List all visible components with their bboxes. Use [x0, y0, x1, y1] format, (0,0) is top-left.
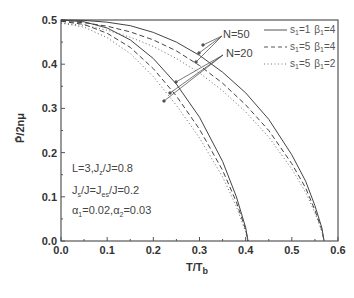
- y-tick-label: 0.1: [42, 191, 57, 203]
- annotation-arrows: [163, 36, 223, 102]
- legend-item-2: s1=5β1=4: [290, 41, 336, 53]
- chart: 0.00.10.20.30.40.50.6 0.00.10.20.30.40.5…: [0, 0, 354, 298]
- param-line-2: Js/J=Jes/J=0.2: [72, 184, 139, 198]
- arrowhead-icon: [195, 61, 198, 64]
- x-axis-label: T/Tb: [186, 261, 209, 276]
- y-tick-label: 0.4: [42, 58, 58, 70]
- arrowhead-icon: [202, 44, 205, 47]
- annotation-n20: N=20: [226, 47, 253, 59]
- legend-item-1: s1=1β1=4: [290, 24, 336, 36]
- legend-item-3: s1=5β1=2: [290, 58, 336, 70]
- arrowhead-icon: [198, 52, 201, 55]
- y-axis-label: P̄/2nμ: [14, 113, 26, 143]
- y-tick-label: 0.0: [42, 235, 57, 247]
- param-line-3: α1=0.02,α2=0.03: [72, 204, 151, 218]
- y-tick-label: 0.3: [42, 102, 57, 114]
- n-annotations: N=50 N=20: [163, 28, 253, 102]
- x-tick-label: 0.3: [192, 244, 207, 256]
- x-tick-label: 0.5: [284, 244, 299, 256]
- x-tick-label: 0.6: [330, 244, 345, 256]
- arrowhead-icon: [175, 81, 178, 84]
- y-tick-label: 0.2: [42, 147, 57, 159]
- arrowhead-icon: [169, 92, 172, 95]
- legend: s1=1β1=4 s1=5β1=4 s1=5β1=2: [264, 24, 336, 70]
- x-tick-label: 0.4: [238, 244, 254, 256]
- x-tick-label: 0.1: [100, 244, 115, 256]
- parameter-annotations: L=3,Jz/J=0.8 Js/J=Jes/J=0.2 α1=0.02,α2=0…: [72, 162, 151, 218]
- arrowhead-icon: [163, 100, 166, 103]
- annotation-n50: N=50: [223, 28, 250, 40]
- param-line-1: L=3,Jz/J=0.8: [72, 162, 133, 176]
- y-tick-label: 0.5: [42, 14, 57, 26]
- x-axis-ticks: 0.00.10.20.30.40.50.6: [53, 237, 345, 256]
- x-tick-label: 0.2: [146, 244, 161, 256]
